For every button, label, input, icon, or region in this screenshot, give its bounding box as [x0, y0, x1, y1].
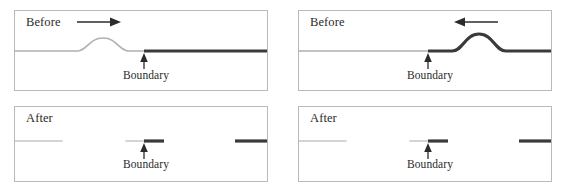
boundary-label: Boundary [123, 159, 169, 171]
thick-string-with-pulse [428, 34, 551, 51]
state-label-before: Before [26, 16, 61, 29]
boundary-label: Boundary [123, 70, 169, 82]
state-label-after: After [310, 112, 337, 125]
state-label-before: Before [310, 16, 345, 29]
boundary-arrow-up-icon [140, 53, 148, 69]
boundary-label: Boundary [407, 70, 453, 82]
boundary-label: Boundary [407, 159, 453, 171]
boundary-arrow-up-icon [424, 143, 432, 159]
panel-bottom-right-after: After Boundary [298, 106, 552, 182]
arrow-right-icon [77, 18, 121, 27]
boundary-arrow-up-icon [424, 53, 432, 69]
panel-top-right-before: Before Boundary [298, 10, 552, 91]
arrow-left-icon [454, 18, 498, 27]
thin-string-with-pulse [15, 38, 144, 51]
boundary-arrow-up-icon [140, 143, 148, 159]
panel-bottom-left-after: After Boundary [14, 106, 268, 182]
figure-root: Before Boundary Before [0, 0, 568, 192]
panel-top-left-before: Before Boundary [14, 10, 268, 91]
state-label-after: After [26, 112, 53, 125]
